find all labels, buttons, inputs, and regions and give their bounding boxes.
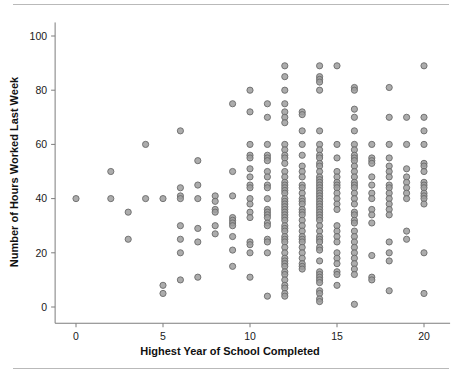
- scatter-point: [282, 120, 288, 126]
- scatter-point: [177, 185, 183, 191]
- scatter-point: [264, 239, 270, 245]
- scatter-point: [264, 185, 270, 191]
- y-tick-label: 0: [41, 301, 47, 313]
- scatter-point: [195, 225, 201, 231]
- scatter-point: [334, 271, 340, 277]
- scatter-point: [317, 128, 323, 134]
- x-tick-label: 15: [331, 330, 343, 342]
- scatter-point: [264, 223, 270, 229]
- scatter-point: [247, 166, 253, 172]
- scatter-point: [160, 282, 166, 288]
- x-axis-ticks: 05101520: [73, 323, 430, 342]
- scatter-point: [369, 277, 375, 283]
- scatter-point: [264, 158, 270, 164]
- scatter-point: [212, 209, 218, 215]
- scatter-point: [421, 290, 427, 296]
- scatter-point: [195, 196, 201, 202]
- scatter-point: [73, 196, 79, 202]
- scatter-point: [334, 206, 340, 212]
- y-tick-label: 100: [30, 30, 48, 42]
- scatter-point: [195, 182, 201, 188]
- scatter-point: [299, 174, 305, 180]
- y-axis-title: Number of Hours Worked Last Week: [8, 76, 20, 267]
- scatter-point: [247, 250, 253, 256]
- scatter-plot-figure: 020406080100 05101520 Highest Year of Sc…: [0, 0, 461, 375]
- scatter-point: [264, 114, 270, 120]
- y-tick-label: 60: [35, 138, 47, 150]
- scatter-point: [386, 114, 392, 120]
- scatter-point: [421, 250, 427, 256]
- scatter-point: [247, 109, 253, 115]
- scatter-point: [351, 201, 357, 207]
- scatter-point: [212, 231, 218, 237]
- scatter-point: [247, 155, 253, 161]
- scatter-point: [404, 114, 410, 120]
- scatter-point: [247, 274, 253, 280]
- scatter-point: [404, 166, 410, 172]
- scatter-point: [317, 298, 323, 304]
- scatter-point: [334, 282, 340, 288]
- scatter-point: [264, 250, 270, 256]
- scatter-point: [421, 128, 427, 134]
- scatter-point: [351, 220, 357, 226]
- scatter-point: [369, 252, 375, 258]
- scatter-point: [177, 277, 183, 283]
- scatter-point: [317, 87, 323, 93]
- scatter-point: [317, 280, 323, 286]
- scatter-point: [404, 228, 410, 234]
- scatter-point: [386, 212, 392, 218]
- scatter-point: [247, 214, 253, 220]
- x-axis-title: Highest Year of School Completed: [140, 345, 320, 357]
- scatter-point: [421, 141, 427, 147]
- scatter-point: [351, 114, 357, 120]
- scatter-point: [282, 87, 288, 93]
- x-tick-label: 10: [244, 330, 256, 342]
- scatter-point: [317, 63, 323, 69]
- scatter-point: [177, 223, 183, 229]
- scatter-point: [351, 87, 357, 93]
- scatter-point: [386, 239, 392, 245]
- scatter-point: [351, 301, 357, 307]
- scatter-point: [386, 155, 392, 161]
- x-tick-label: 20: [418, 330, 430, 342]
- scatter-point: [264, 141, 270, 147]
- scatter-point: [230, 101, 236, 107]
- y-tick-label: 80: [35, 84, 47, 96]
- scatter-point: [317, 79, 323, 85]
- scatter-point: [386, 174, 392, 180]
- scatter-point: [125, 236, 131, 242]
- scatter-point: [386, 141, 392, 147]
- scatter-point: [386, 258, 392, 264]
- scatter-point: [404, 141, 410, 147]
- scatter-point: [230, 263, 236, 269]
- scatter-point: [369, 182, 375, 188]
- scatter-point: [334, 63, 340, 69]
- scatter-point: [230, 233, 236, 239]
- scatter-point: [299, 266, 305, 272]
- scatter-point: [247, 174, 253, 180]
- scatter-point: [351, 106, 357, 112]
- scatter-point: [282, 160, 288, 166]
- scatter-point: [369, 196, 375, 202]
- scatter-point: [299, 141, 305, 147]
- scatter-point: [143, 141, 149, 147]
- scatter-point: [369, 212, 375, 218]
- scatter-point: [421, 114, 427, 120]
- scatter-point: [334, 261, 340, 267]
- x-tick-label: 5: [160, 330, 166, 342]
- y-tick-label: 40: [35, 192, 47, 204]
- scatter-point: [282, 74, 288, 80]
- scatter-point: [282, 293, 288, 299]
- scatter-point: [125, 209, 131, 215]
- scatter-point: [212, 198, 218, 204]
- scatter-point: [317, 247, 323, 253]
- scatter-point: [195, 274, 201, 280]
- scatter-point: [264, 293, 270, 299]
- scatter-point: [160, 290, 166, 296]
- scatter-point: [143, 196, 149, 202]
- scatter-point: [421, 168, 427, 174]
- scatter-point: [282, 101, 288, 107]
- scatter-point: [421, 63, 427, 69]
- scatter-point: [247, 141, 253, 147]
- scatter-point: [177, 236, 183, 242]
